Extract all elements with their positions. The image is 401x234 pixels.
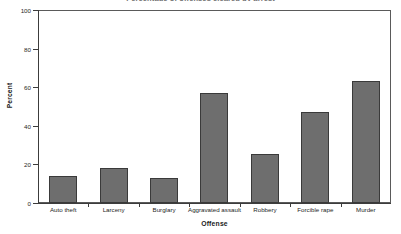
x-category-label: Auto theft [50, 206, 77, 213]
x-category-label: Larceny [103, 206, 125, 213]
x-category-label: Burglary [153, 206, 176, 213]
y-tick-label: 20 [1, 161, 31, 168]
x-tick-mark [341, 203, 342, 207]
y-tick-mark [33, 203, 38, 204]
y-tick-label: 100 [1, 7, 31, 14]
y-tick-label: 0 [1, 200, 31, 207]
bar[interactable] [301, 112, 329, 203]
bar-slot [189, 10, 239, 203]
y-axis-title: Percent [6, 61, 13, 131]
bar-slot [240, 10, 290, 203]
bar-slot [341, 10, 391, 203]
bars-layer [38, 10, 391, 203]
bar[interactable] [352, 81, 380, 203]
x-category-label: Robbery [253, 206, 276, 213]
x-tick-mark [88, 203, 89, 207]
x-category-label: Murder [356, 206, 376, 213]
x-category-label: Forcible rape [297, 206, 333, 213]
x-axis-line [38, 203, 391, 204]
bar-slot [290, 10, 340, 203]
bar[interactable] [150, 178, 178, 203]
x-axis-title: Offense [38, 220, 391, 227]
x-tick-mark [290, 203, 291, 207]
bar-slot [38, 10, 88, 203]
y-tick-label: 80 [1, 45, 31, 52]
bar-slot [139, 10, 189, 203]
bar[interactable] [200, 93, 228, 203]
bar-chart: Percentage of offenses cleared by arrest… [0, 0, 401, 234]
bar[interactable] [100, 168, 128, 203]
x-category-label: Aggravated assault [188, 206, 241, 213]
bar-slot [88, 10, 138, 203]
bar[interactable] [251, 154, 279, 203]
bar[interactable] [49, 176, 77, 203]
x-tick-mark [139, 203, 140, 207]
chart-title: Percentage of offenses cleared by arrest [0, 0, 401, 1]
